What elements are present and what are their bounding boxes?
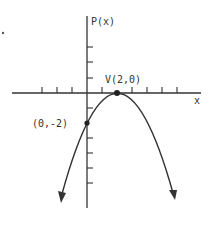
left-arrow-icon — [58, 191, 66, 203]
parabola-graph: P(x) x V(2,0) (0,-2) — [0, 0, 215, 234]
parabola-curve — [62, 93, 173, 194]
x-axis-ticks — [42, 87, 177, 93]
vertex-label: V(2,0) — [105, 74, 141, 85]
y-axis-label: P(x) — [91, 16, 115, 27]
stray-mark — [2, 32, 4, 34]
right-arrow-icon — [169, 190, 177, 200]
intercept-label: (0,-2) — [32, 118, 68, 129]
y-intercept-point — [84, 120, 89, 125]
x-axis-label: x — [194, 95, 200, 106]
vertex-point — [114, 90, 120, 96]
